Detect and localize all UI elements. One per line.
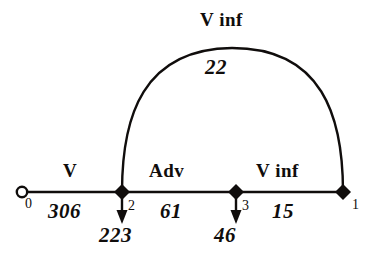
node-label-3: 3 [242, 199, 249, 213]
outflow-label-node-3-46: 46 [214, 225, 236, 246]
diagram-canvas: V inf 22 V Adv V inf 0 2 3 1 306 61 15 2… [0, 0, 381, 265]
node-label-1: 1 [352, 198, 359, 212]
edge-flow-label-61: 61 [160, 201, 182, 222]
edge-type-label-adv: Adv [149, 161, 184, 180]
node-label-2: 2 [128, 199, 135, 213]
edge-flow-label-15: 15 [272, 201, 294, 222]
outflow-label-node-2-223: 223 [99, 225, 132, 246]
edge-flow-label-306: 306 [48, 201, 81, 222]
edge-type-label-bottom-v-inf: V inf [256, 161, 299, 180]
edge-type-label-arc-v-inf: V inf [200, 10, 243, 29]
node-label-0: 0 [25, 197, 32, 211]
edge-flow-label-arc-22: 22 [205, 57, 227, 78]
network-diagram-graphics [0, 0, 381, 265]
edge-type-label-v: V [63, 161, 77, 180]
node-1-sink-marker[interactable] [335, 184, 351, 200]
